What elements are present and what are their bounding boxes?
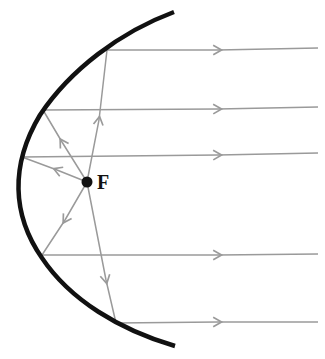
parabolic-reflector-diagram xyxy=(0,0,325,359)
focus-point xyxy=(82,177,93,188)
reflected-ray-3 xyxy=(22,153,318,157)
reflected-ray-2 xyxy=(43,107,318,110)
reflected-ray-4 xyxy=(42,254,318,255)
reflected-ray-1 xyxy=(107,48,318,50)
incident-ray-3 xyxy=(22,157,87,182)
incident-ray-4 xyxy=(42,182,87,255)
incident-ray-2 xyxy=(43,110,87,182)
incident-ray-1 xyxy=(87,50,107,182)
reflected-ray-5 xyxy=(116,322,318,323)
reflected-rays xyxy=(22,48,318,323)
incident-ray-5 xyxy=(87,182,116,323)
focus-label: F xyxy=(97,171,109,194)
